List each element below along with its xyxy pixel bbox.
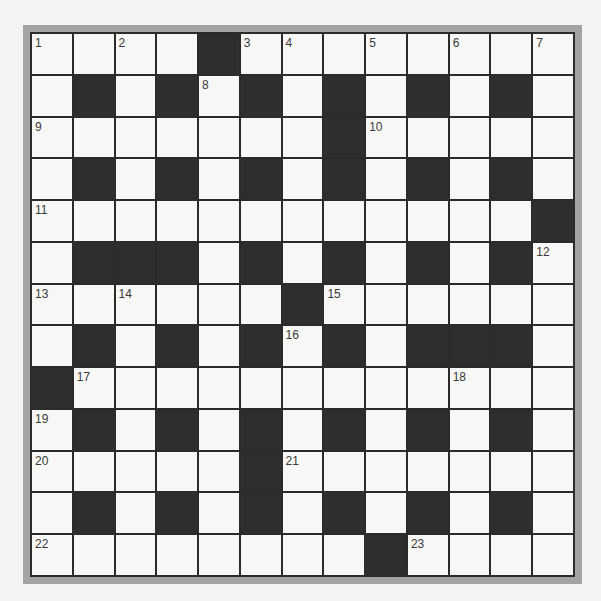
crossword-cell[interactable] <box>408 34 448 74</box>
crossword-cell[interactable] <box>199 159 239 199</box>
crossword-cell[interactable] <box>241 201 281 241</box>
crossword-cell[interactable] <box>408 118 448 158</box>
crossword-cell[interactable] <box>408 368 448 408</box>
crossword-cell[interactable] <box>283 535 323 575</box>
crossword-cell[interactable]: 15 <box>324 285 364 325</box>
crossword-cell[interactable]: 9 <box>32 118 72 158</box>
crossword-cell[interactable] <box>450 159 490 199</box>
crossword-cell[interactable] <box>283 76 323 116</box>
crossword-cell[interactable] <box>324 201 364 241</box>
crossword-cell[interactable]: 20 <box>32 452 72 492</box>
crossword-cell[interactable]: 8 <box>199 76 239 116</box>
crossword-cell[interactable] <box>283 118 323 158</box>
crossword-cell[interactable] <box>533 410 573 450</box>
crossword-cell[interactable] <box>283 368 323 408</box>
crossword-cell[interactable] <box>533 285 573 325</box>
crossword-cell[interactable]: 21 <box>283 452 323 492</box>
crossword-cell[interactable] <box>491 118 531 158</box>
crossword-cell[interactable] <box>116 159 156 199</box>
crossword-cell[interactable] <box>533 159 573 199</box>
crossword-cell[interactable] <box>283 493 323 533</box>
crossword-cell[interactable] <box>366 159 406 199</box>
crossword-cell[interactable] <box>74 285 114 325</box>
crossword-cell[interactable]: 22 <box>32 535 72 575</box>
crossword-cell[interactable] <box>157 535 197 575</box>
crossword-cell[interactable] <box>74 34 114 74</box>
crossword-cell[interactable] <box>199 410 239 450</box>
crossword-cell[interactable] <box>450 118 490 158</box>
crossword-cell[interactable]: 18 <box>450 368 490 408</box>
crossword-cell[interactable] <box>533 493 573 533</box>
crossword-cell[interactable] <box>199 368 239 408</box>
crossword-cell[interactable] <box>366 285 406 325</box>
crossword-cell[interactable] <box>283 243 323 283</box>
crossword-cell[interactable] <box>241 118 281 158</box>
crossword-cell[interactable] <box>450 452 490 492</box>
crossword-cell[interactable] <box>157 118 197 158</box>
crossword-cell[interactable] <box>408 201 448 241</box>
crossword-cell[interactable] <box>366 410 406 450</box>
crossword-cell[interactable]: 16 <box>283 326 323 366</box>
crossword-cell[interactable] <box>450 493 490 533</box>
crossword-cell[interactable] <box>199 243 239 283</box>
crossword-cell[interactable] <box>366 201 406 241</box>
crossword-cell[interactable] <box>324 368 364 408</box>
crossword-cell[interactable]: 13 <box>32 285 72 325</box>
crossword-cell[interactable] <box>116 118 156 158</box>
crossword-cell[interactable] <box>450 535 490 575</box>
crossword-cell[interactable] <box>491 368 531 408</box>
crossword-cell[interactable]: 6 <box>450 34 490 74</box>
crossword-cell[interactable] <box>533 326 573 366</box>
crossword-cell[interactable]: 5 <box>366 34 406 74</box>
crossword-cell[interactable] <box>157 201 197 241</box>
crossword-cell[interactable] <box>32 493 72 533</box>
crossword-cell[interactable] <box>199 201 239 241</box>
crossword-cell[interactable] <box>283 201 323 241</box>
crossword-cell[interactable] <box>366 326 406 366</box>
crossword-cell[interactable] <box>450 410 490 450</box>
crossword-cell[interactable]: 7 <box>533 34 573 74</box>
crossword-cell[interactable] <box>199 326 239 366</box>
crossword-cell[interactable] <box>74 118 114 158</box>
crossword-cell[interactable] <box>199 493 239 533</box>
crossword-cell[interactable]: 11 <box>32 201 72 241</box>
crossword-cell[interactable] <box>157 34 197 74</box>
crossword-cell[interactable] <box>324 452 364 492</box>
crossword-cell[interactable] <box>283 159 323 199</box>
crossword-cell[interactable] <box>116 368 156 408</box>
crossword-cell[interactable] <box>533 452 573 492</box>
crossword-cell[interactable] <box>366 452 406 492</box>
crossword-cell[interactable]: 2 <box>116 34 156 74</box>
crossword-cell[interactable] <box>116 410 156 450</box>
crossword-cell[interactable] <box>450 76 490 116</box>
crossword-cell[interactable] <box>116 535 156 575</box>
crossword-cell[interactable] <box>116 76 156 116</box>
crossword-cell[interactable]: 17 <box>74 368 114 408</box>
crossword-cell[interactable] <box>74 452 114 492</box>
crossword-cell[interactable]: 19 <box>32 410 72 450</box>
crossword-cell[interactable] <box>241 368 281 408</box>
crossword-cell[interactable] <box>491 535 531 575</box>
crossword-cell[interactable] <box>116 326 156 366</box>
crossword-cell[interactable]: 14 <box>116 285 156 325</box>
crossword-cell[interactable]: 3 <box>241 34 281 74</box>
crossword-cell[interactable]: 23 <box>408 535 448 575</box>
crossword-cell[interactable] <box>491 34 531 74</box>
crossword-cell[interactable]: 12 <box>533 243 573 283</box>
crossword-cell[interactable] <box>74 201 114 241</box>
crossword-cell[interactable] <box>116 201 156 241</box>
crossword-cell[interactable] <box>74 535 114 575</box>
crossword-cell[interactable] <box>241 535 281 575</box>
crossword-cell[interactable] <box>199 535 239 575</box>
crossword-cell[interactable] <box>283 410 323 450</box>
crossword-cell[interactable] <box>366 76 406 116</box>
crossword-cell[interactable] <box>450 285 490 325</box>
crossword-cell[interactable] <box>324 34 364 74</box>
crossword-cell[interactable] <box>32 326 72 366</box>
crossword-cell[interactable] <box>116 493 156 533</box>
crossword-cell[interactable] <box>32 159 72 199</box>
crossword-cell[interactable] <box>32 76 72 116</box>
crossword-cell[interactable] <box>157 452 197 492</box>
crossword-cell[interactable] <box>366 493 406 533</box>
crossword-cell[interactable]: 4 <box>283 34 323 74</box>
